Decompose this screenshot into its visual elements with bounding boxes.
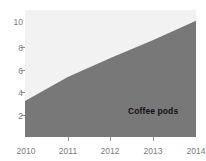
x-tick-label-2011: 2011: [48, 146, 88, 156]
y-tick-label-8: 8: [3, 43, 23, 53]
y-tick-label-6: 6: [3, 66, 23, 76]
x-tick-label-2010: 2010: [6, 146, 46, 156]
x-tick-mark-2011: [68, 137, 69, 141]
x-tick-mark-2013: [153, 137, 154, 141]
x-tick-mark-2012: [110, 137, 111, 141]
y-tick-label-2: 2: [3, 111, 23, 121]
x-tick-label-2012: 2012: [90, 146, 130, 156]
x-tick-label-2013: 2013: [133, 146, 173, 156]
plot-area: Coffee pods: [25, 10, 196, 137]
area-chart: Coffee pods 10 8 6 4 2 2010 2011 2012 20…: [0, 0, 206, 161]
y-tick-label-4: 4: [3, 88, 23, 98]
series-label-coffee-pods: Coffee pods: [128, 106, 178, 116]
x-tick-label-2014: 2014: [176, 146, 206, 156]
area-series-svg: [25, 10, 196, 137]
area-series-coffee-pods: [25, 21, 196, 137]
y-tick-label-10: 10: [3, 17, 23, 27]
